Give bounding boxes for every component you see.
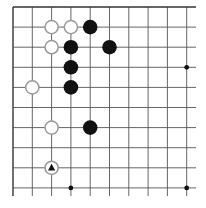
black-stone (102, 40, 117, 55)
go-board (0, 0, 206, 208)
star-point-icon (184, 186, 189, 191)
grid-lines (13, 7, 196, 196)
white-stone (26, 81, 39, 94)
black-stone (83, 20, 98, 35)
star-point-icon (69, 186, 74, 191)
white-stone (45, 21, 58, 34)
black-stone (64, 80, 79, 95)
white-stone (64, 21, 77, 34)
black-stone (83, 120, 98, 135)
white-stone (45, 41, 58, 54)
star-point-icon (184, 65, 189, 70)
black-stone (64, 60, 79, 75)
white-stone (45, 121, 58, 134)
black-stone (64, 40, 79, 55)
